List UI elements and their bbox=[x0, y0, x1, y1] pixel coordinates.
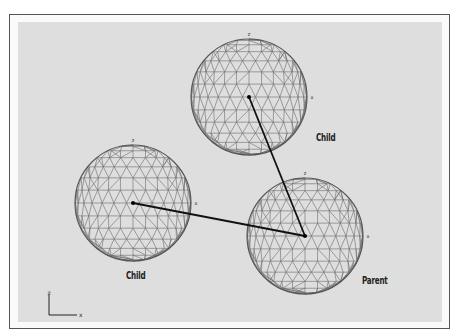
label-child-left: Child bbox=[126, 270, 145, 281]
x-axis-marker: x bbox=[195, 200, 198, 206]
x-axis-marker: x bbox=[311, 94, 314, 100]
axis-gizmo bbox=[49, 295, 77, 315]
gizmo-z-icon: z bbox=[47, 289, 50, 296]
z-axis-marker: z bbox=[248, 31, 251, 37]
pivot-parent bbox=[303, 234, 307, 238]
label-child-top: Child bbox=[316, 132, 335, 143]
pivot-child-top bbox=[247, 95, 251, 99]
z-axis-marker: z bbox=[132, 137, 135, 143]
scene-canvas: zxzxzxzx bbox=[0, 0, 458, 334]
gizmo-x-icon: x bbox=[79, 311, 83, 318]
pivot-child-left bbox=[131, 201, 135, 205]
label-parent: Parent bbox=[362, 275, 387, 286]
z-axis-marker: z bbox=[304, 170, 307, 176]
x-axis-marker: x bbox=[367, 233, 370, 239]
